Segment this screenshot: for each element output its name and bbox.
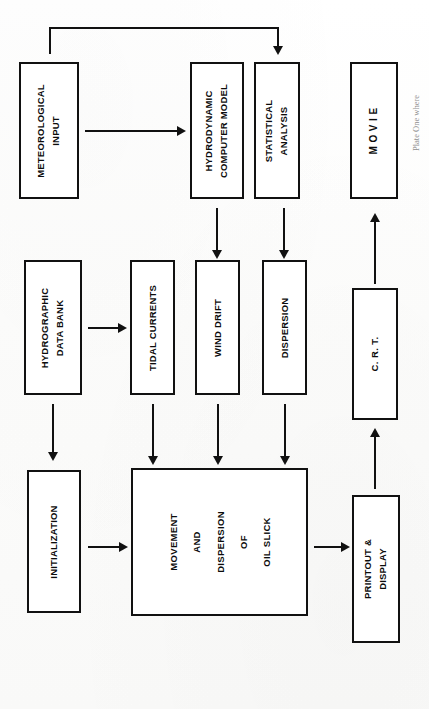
- node-meteorological-input-label: METEOROLOGICAL INPUT: [34, 84, 63, 178]
- node-hydrographic-data-bank-label: HYDROGRAPHIC DATA BANK: [38, 287, 67, 368]
- edge-init-to-model-line: [88, 546, 119, 548]
- node-printout-display[interactable]: PRINTOUT & DISPLAY: [352, 495, 400, 643]
- node-crt-label: C. R. T.: [368, 337, 383, 372]
- node-crt[interactable]: C. R. T.: [352, 288, 398, 420]
- node-tidal-currents-label: TIDAL CURRENTS: [145, 284, 160, 370]
- node-hydrographic-data-bank[interactable]: HYDROGRAPHIC DATA BANK: [24, 260, 82, 395]
- node-statistical-analysis-label: STATISTICAL ANALYSIS: [262, 99, 291, 162]
- node-dispersion-label: DISPERSION: [277, 297, 292, 358]
- edge-dispersion-to-model-line: [284, 404, 286, 458]
- node-movie[interactable]: M O V I E: [350, 62, 398, 199]
- edge-feedback-top-horizontal: [49, 27, 279, 29]
- edge-model-to-printout-arrowhead: [341, 542, 350, 552]
- edge-wind-to-model-arrowhead: [213, 456, 223, 465]
- node-tidal-currents[interactable]: TIDAL CURRENTS: [130, 260, 175, 395]
- edge-dispersion-to-model-arrowhead: [280, 456, 290, 465]
- edge-printout-to-crt-line: [374, 437, 376, 489]
- node-movement-dispersion-oil-slick-label: MOVEMENT AND DISPERSION OF OIL SLICK: [161, 511, 277, 573]
- figure-canvas: METEOROLOGICAL INPUT HYDRODYNAMIC COMPUT…: [0, 0, 429, 709]
- edge-caption-text: Plate One where: [412, 95, 422, 151]
- edge-feedback-stub-vertical: [49, 27, 51, 54]
- node-printout-display-label: PRINTOUT & DISPLAY: [361, 539, 390, 599]
- node-movement-dispersion-oil-slick[interactable]: MOVEMENT AND DISPERSION OF OIL SLICK: [131, 468, 308, 616]
- edge-met-to-hydro-line: [85, 130, 177, 132]
- edge-caption: Plate One where: [406, 18, 428, 228]
- edge-model-to-printout-line: [314, 546, 342, 548]
- edge-hdb-to-init-line: [52, 404, 54, 454]
- edge-feedback-arrowhead: [273, 46, 283, 55]
- edge-crt-to-movie-arrowhead: [370, 213, 380, 222]
- edge-hdb-to-tidal-line: [88, 327, 118, 329]
- node-hydrodynamic-computer-model[interactable]: HYDRODYNAMIC COMPUTER MODEL: [190, 62, 244, 199]
- node-statistical-analysis[interactable]: STATISTICAL ANALYSIS: [254, 62, 300, 199]
- edge-stat-to-dispersion-arrowhead: [279, 250, 289, 259]
- edge-met-to-hydro-arrowhead: [177, 126, 186, 136]
- edge-tidal-to-model-line: [152, 404, 154, 458]
- node-initialization-label: INITIALIZATION: [47, 505, 62, 578]
- node-meteorological-input[interactable]: METEOROLOGICAL INPUT: [19, 62, 79, 199]
- edge-printout-to-crt-arrowhead: [370, 428, 380, 437]
- edge-crt-to-movie-line: [374, 222, 376, 284]
- edge-hdb-to-tidal-arrowhead: [118, 323, 127, 333]
- edge-init-to-model-arrowhead: [119, 542, 128, 552]
- edge-hydro-to-wind-arrowhead: [212, 250, 222, 259]
- node-wind-drift[interactable]: WIND DRIFT: [195, 260, 240, 395]
- node-wind-drift-label: WIND DRIFT: [210, 299, 225, 357]
- node-movie-label: M O V I E: [366, 107, 382, 154]
- edge-tidal-to-model-arrowhead: [148, 456, 158, 465]
- edge-hydro-to-wind-line: [216, 208, 218, 252]
- node-hydrodynamic-computer-model-label: HYDRODYNAMIC COMPUTER MODEL: [202, 83, 231, 177]
- edge-wind-to-model-line: [217, 404, 219, 458]
- node-dispersion[interactable]: DISPERSION: [262, 260, 307, 395]
- node-initialization[interactable]: INITIALIZATION: [27, 470, 81, 613]
- edge-stat-to-dispersion-line: [283, 208, 285, 252]
- edge-hdb-to-init-arrowhead: [48, 452, 58, 461]
